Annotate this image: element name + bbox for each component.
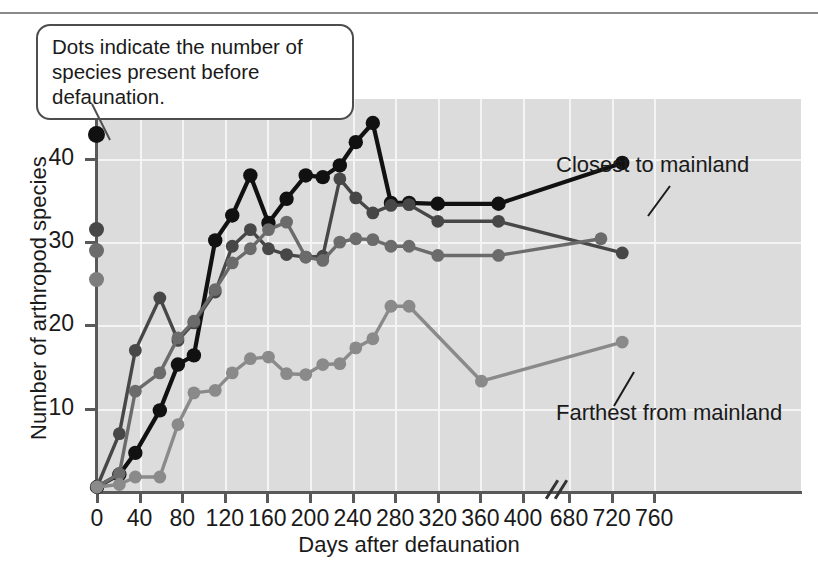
- annotation-closest-to-mainland: Closest to mainland: [556, 152, 749, 178]
- annotation-farthest-from-mainland: Farthest from mainland: [556, 400, 782, 426]
- chart-figure: 1020304004080120160200240280320360400680…: [0, 0, 818, 567]
- annotation-leader-lines: [0, 0, 818, 567]
